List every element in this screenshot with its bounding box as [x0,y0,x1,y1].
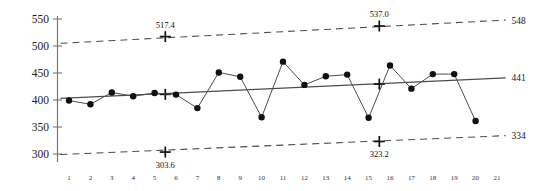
lower-control-limit [60,136,505,155]
y-axis-tick-label: 550 [32,13,50,25]
data-point[interactable] [365,115,371,121]
x-axis-tick-label: 18 [429,174,437,182]
x-axis-tick-label: 3 [110,174,114,182]
x-axis-tick-label: 21 [494,174,502,182]
x-axis-tick-label: 5 [153,174,157,182]
data-point[interactable] [194,105,200,111]
x-axis-tick-label: 4 [131,174,135,182]
x-axis-tick-label: 15 [365,174,373,182]
data-point[interactable] [87,101,93,107]
data-point[interactable] [258,114,264,120]
x-axis-tick-label: 12 [301,174,309,182]
data-point[interactable] [408,85,414,91]
data-point[interactable] [472,118,478,124]
x-axis-tick-label: 17 [408,174,416,182]
data-point[interactable] [430,71,436,77]
x-axis-tick-label: 14 [344,174,352,182]
y-axis-tick-label: 350 [32,121,50,133]
x-axis-tick-label: 2 [89,174,93,182]
data-point[interactable] [216,69,222,75]
lcl-right-value: 323.2 [370,149,389,159]
x-axis-tick-label: 9 [238,174,242,182]
center-line-edge-label: 441 [512,73,527,83]
upper-control-limit-edge-label: 548 [512,16,527,26]
data-point[interactable] [237,74,243,80]
lcl-mid-value: 303.6 [156,160,175,170]
data-point[interactable] [301,82,307,88]
ucl-right-value: 537.0 [370,9,389,19]
x-axis-tick-label: 11 [280,174,287,182]
x-axis-tick-label: 13 [322,174,330,182]
data-point[interactable] [66,97,72,103]
data-point[interactable] [451,71,457,77]
data-point[interactable] [323,73,329,79]
x-axis-tick-label: 7 [196,174,200,182]
upper-control-limit [60,20,505,43]
y-axis-tick-label: 450 [32,67,50,79]
lower-control-limit-edge-label: 334 [512,131,527,141]
data-point[interactable] [151,90,157,96]
data-point[interactable] [130,93,136,99]
x-axis-tick-label: 10 [258,174,266,182]
data-point[interactable] [173,91,179,97]
data-point[interactable] [387,62,393,68]
ucl-mid-value: 517.4 [156,20,176,30]
x-axis-tick-label: 6 [174,174,178,182]
x-axis-tick-label: 19 [451,174,459,182]
data-point[interactable] [280,58,286,64]
control-chart-canvas: 3003504004505005501234567891011121314151… [0,0,551,191]
data-point[interactable] [109,89,115,95]
data-series-line [69,62,476,121]
x-axis-tick-label: 1 [67,174,71,182]
x-axis-tick-label: 16 [387,174,395,182]
y-axis-tick-label: 400 [32,94,50,106]
y-axis-tick-label: 300 [32,148,50,160]
x-axis-tick-label: 20 [472,174,480,182]
data-point[interactable] [344,71,350,77]
control-chart: 3003504004505005501234567891011121314151… [0,0,551,191]
x-axis-tick-label: 8 [217,174,221,182]
y-axis-tick-label: 500 [32,40,50,52]
